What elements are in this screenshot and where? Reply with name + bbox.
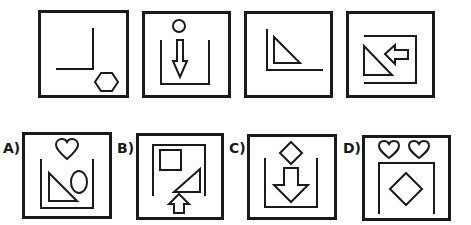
option-d-label: D) xyxy=(343,141,361,155)
figure-4-graphic xyxy=(346,11,436,99)
right-triangle-shape xyxy=(274,37,300,63)
figure-1-graphic xyxy=(38,10,130,98)
n-bracket-shape xyxy=(379,163,434,214)
heart-shape xyxy=(56,139,78,159)
option-d[interactable] xyxy=(362,135,452,222)
right-triangle-shape xyxy=(174,169,200,192)
square-shape xyxy=(160,150,181,170)
up-arrow-shape xyxy=(169,194,189,213)
option-b-graphic xyxy=(136,133,225,221)
option-a-label: A) xyxy=(3,141,20,155)
heart-shape-right xyxy=(409,141,429,158)
sequence-figure-1 xyxy=(38,10,130,98)
option-b-label: B) xyxy=(117,141,134,155)
sequence-figure-2 xyxy=(142,11,232,99)
down-arrow-shape xyxy=(173,40,187,77)
option-c-label: C) xyxy=(229,141,246,155)
option-c[interactable] xyxy=(247,134,338,221)
option-c-graphic xyxy=(247,134,338,221)
figure-2-graphic xyxy=(142,11,232,99)
sequence-figure-3 xyxy=(244,11,334,99)
hexagon-shape xyxy=(95,73,118,91)
heart-shape-left xyxy=(379,141,399,158)
corner-lines-shape xyxy=(56,28,93,69)
sequence-figure-4 xyxy=(346,11,436,99)
diamond-shape xyxy=(390,173,422,205)
circle-shape xyxy=(173,20,185,32)
option-a-graphic xyxy=(22,132,113,220)
diamond-shape xyxy=(280,142,302,164)
option-b[interactable] xyxy=(136,133,225,221)
figure-3-graphic xyxy=(244,11,334,99)
ellipse-shape xyxy=(71,171,87,193)
left-arrow-shape xyxy=(385,45,408,64)
option-a[interactable] xyxy=(22,132,113,220)
option-d-graphic xyxy=(362,135,452,222)
down-arrow-shape xyxy=(274,168,308,202)
